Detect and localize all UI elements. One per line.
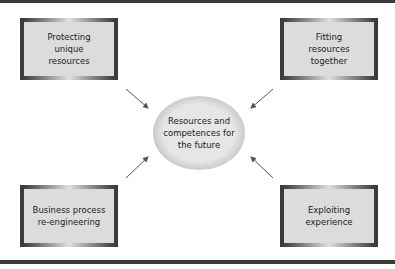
arrow-top-right-icon [251, 89, 273, 108]
arrow-bottom-right-icon [251, 157, 273, 178]
bottom-rule [0, 260, 395, 264]
arrow-top-left-icon [126, 89, 148, 108]
arrow-bottom-left-icon [126, 157, 148, 178]
arrows-layer [0, 0, 395, 269]
